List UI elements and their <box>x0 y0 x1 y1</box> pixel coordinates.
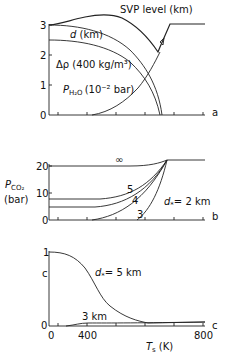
label-dstar-2km: d*= 2 km <box>164 196 211 209</box>
delta-rho-curve <box>49 40 160 115</box>
svp-level-label: SVP level (km) <box>120 4 193 15</box>
label-infinity: ∞ <box>115 154 123 165</box>
panel-b-ytick-0: 0 <box>42 215 48 226</box>
panel-c-letter: c <box>212 320 218 331</box>
ph2o-label: PH₂O(10⁻² bar) <box>63 84 134 97</box>
panel-a: 3 2 1 0 SVP level (km) dd (km) (km) Δρ (… <box>40 4 218 121</box>
label-3: 3 <box>137 209 143 220</box>
panel-b-ytick-10: 10 <box>36 188 49 199</box>
figure: 3 2 1 0 SVP level (km) dd (km) (km) Δρ (… <box>0 0 227 358</box>
pco2-ylabel-unit: (bar) <box>4 194 28 205</box>
panel-b-ytick-20: 20 <box>36 161 49 172</box>
curve-4 <box>49 160 167 207</box>
xtick-0: 0 <box>48 330 54 341</box>
curve-infinity <box>49 160 205 166</box>
panel-c: 1 0 c d*= 5 km 3 km 0 400 800 Ts(K) c <box>41 247 218 354</box>
xtick-400: 400 <box>78 330 97 341</box>
pco2-ylabel: PCO₂ <box>5 179 24 192</box>
panel-a-letter: a <box>212 107 218 118</box>
panel-a-ytick-0: 0 <box>40 110 46 121</box>
panel-b: 20 10 0 PCO₂ (bar) ∞ 5 4 3 d*= 2 km b <box>4 154 218 226</box>
panel-c-ytick-1: 1 <box>43 247 49 258</box>
d-label: dd (km) (km) <box>70 29 103 40</box>
label-dstar-5km: d*= 5 km <box>95 267 142 280</box>
delta-rho-label: Δρ (400 kg/m³) <box>56 59 132 70</box>
label-5: 5 <box>127 184 133 195</box>
panel-a-ytick-1: 1 <box>40 80 46 91</box>
d-curve <box>49 25 162 115</box>
panel-a-ytick-2: 2 <box>40 50 46 61</box>
x-axis-label: Ts(K) <box>146 341 173 354</box>
panel-c-ylabel: c <box>42 268 48 279</box>
label-3km: 3 km <box>82 311 107 322</box>
panel-a-ytick-3: 3 <box>40 20 46 31</box>
panel-c-ytick-0: 0 <box>41 320 47 331</box>
xtick-800: 800 <box>194 330 213 341</box>
panel-b-letter: b <box>212 211 218 222</box>
label-4: 4 <box>132 195 138 206</box>
curve-dstar-5km <box>49 252 205 323</box>
